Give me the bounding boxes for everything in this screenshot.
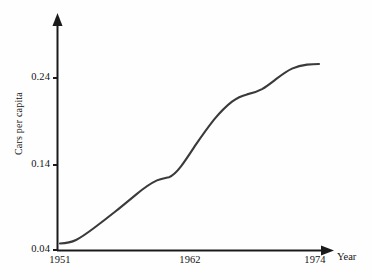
chart-figure: 0.24 0.14 0.04 1951 1962 1974 Cars per c… [0,0,372,280]
y-tick-label-bottom: 0.04 [20,243,50,254]
cars-per-capita-line [60,64,319,244]
y-axis-arrow-icon [53,13,63,26]
y-axis-title: Cars per capita [13,79,24,169]
x-tick-label-1962: 1962 [170,254,210,265]
y-tick-label-top: 0.24 [20,71,50,82]
x-tick-label-1951: 1951 [40,254,80,265]
chart-canvas [0,0,372,280]
y-tick-label-mid: 0.14 [20,158,50,169]
x-axis-title: Year [337,251,356,262]
x-tick-label-1974: 1974 [295,254,335,265]
